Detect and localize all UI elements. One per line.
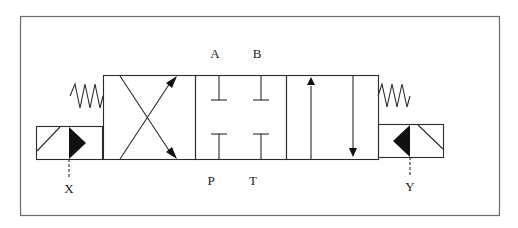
pilot-label-y: Y — [405, 179, 415, 194]
valve-position-center — [196, 76, 287, 160]
right-spring-icon — [378, 84, 410, 107]
right-solenoid-coil-icon — [418, 125, 443, 149]
parallel-arrowhead-down-icon — [349, 148, 357, 157]
parallel-arrowhead-up-icon — [307, 77, 315, 85]
left-spring-icon — [70, 84, 103, 108]
cross-arrow-down-icon — [120, 76, 172, 155]
port-label-a: A — [210, 46, 220, 61]
valve-diagram: A B P T X Y — [0, 0, 518, 228]
right-solenoid — [379, 125, 444, 158]
valve-position-right — [287, 76, 379, 160]
pilot-label-x: X — [64, 181, 74, 196]
valve-position-left — [104, 76, 196, 160]
port-label-t: T — [249, 173, 257, 188]
right-solenoid-triangle-icon — [393, 125, 410, 157]
port-label-p: P — [207, 173, 214, 188]
port-label-b: B — [253, 46, 262, 61]
cross-arrow-up-icon — [120, 80, 172, 159]
left-solenoid-triangle-icon — [69, 127, 86, 159]
left-solenoid-coil-icon — [37, 127, 60, 151]
